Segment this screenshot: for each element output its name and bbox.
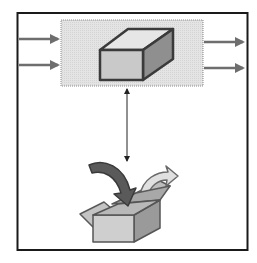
- diagram-canvas: [0, 0, 257, 263]
- component-node: [61, 20, 203, 86]
